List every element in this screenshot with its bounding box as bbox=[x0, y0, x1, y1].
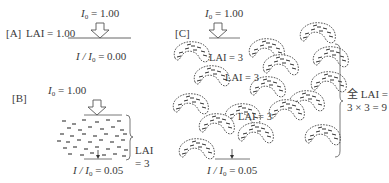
panel-b-label: [B] bbox=[12, 93, 27, 104]
panel-b-ratio: I / I0 = 0.05 bbox=[73, 165, 123, 178]
i0-sub: 0 bbox=[209, 13, 213, 21]
panel-b-lai-value: = 3 bbox=[135, 158, 149, 169]
ratio-var: I / I bbox=[73, 164, 89, 176]
panel-b-graphics bbox=[57, 100, 133, 160]
leaf-clusters bbox=[173, 23, 348, 159]
i0-sub: 0 bbox=[85, 13, 89, 21]
ratio-sub: 0 bbox=[223, 170, 227, 178]
ratio-sub: 0 bbox=[89, 170, 93, 178]
panel-c-layer-1: LAI = 3 bbox=[209, 53, 243, 64]
panel-c-total-line2: 3 × 3 = 9 bbox=[347, 102, 387, 113]
panel-a-i0-label: I0 = 1.00 bbox=[81, 8, 119, 21]
panel-c-layer-3: LAI = 3 bbox=[238, 112, 272, 123]
panel-c-total-line1: 全 LAI = bbox=[347, 89, 388, 100]
panel-b-i0-label: I0 = 1.00 bbox=[48, 85, 86, 98]
panel-a-graphics bbox=[68, 23, 131, 38]
brace bbox=[126, 115, 133, 160]
scattered-leaves bbox=[57, 120, 128, 156]
i0-value: = 1.00 bbox=[215, 7, 243, 19]
ratio-value: = 0.05 bbox=[95, 164, 123, 176]
i0-value: = 1.00 bbox=[58, 84, 86, 96]
panel-c-label: [C] bbox=[175, 28, 190, 39]
panel-c-ratio: I / I0 = 0.05 bbox=[207, 165, 257, 178]
panel-c-graphics bbox=[173, 23, 348, 159]
i0-value: = 1.00 bbox=[91, 7, 119, 19]
i0-sub: 0 bbox=[52, 90, 56, 98]
incident-light-arrow-icon bbox=[209, 23, 227, 38]
panel-a-label: [A] bbox=[6, 28, 21, 39]
ratio-var: I / I bbox=[207, 164, 223, 176]
incident-light-arrow-icon bbox=[91, 23, 109, 38]
panel-a-ratio: I / I0 = 0.00 bbox=[76, 51, 126, 64]
panel-b-lai-label: LAI bbox=[135, 145, 153, 156]
incident-light-arrow-icon bbox=[88, 100, 106, 115]
ratio-var: I / I bbox=[76, 50, 92, 62]
ratio-value: = 0.05 bbox=[229, 164, 257, 176]
ratio-value: = 0.00 bbox=[98, 50, 126, 62]
panel-a-lai: LAI = 1.00 bbox=[26, 28, 75, 39]
panel-c-layer-2: LAI = 3 bbox=[225, 73, 259, 84]
ratio-sub: 0 bbox=[92, 56, 96, 64]
panel-c-i0-label: I0 = 1.00 bbox=[205, 8, 243, 21]
